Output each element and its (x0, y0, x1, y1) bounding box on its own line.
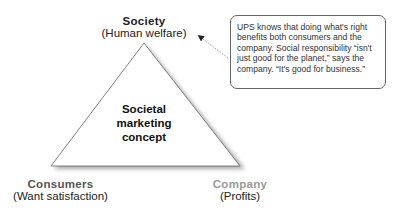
vertex-company: Company (Profits) (205, 178, 275, 202)
company-subtitle: (Profits) (205, 190, 275, 202)
consumers-title: Consumers (8, 178, 113, 190)
callout-box: UPS knows that doing what's right benefi… (230, 15, 386, 89)
vertex-consumers: Consumers (Want satisfaction) (8, 178, 113, 202)
vertex-society: Society (Human welfare) (94, 15, 194, 39)
center-label-line-3: concept (94, 130, 194, 144)
center-label: Societal marketing concept (94, 102, 194, 144)
society-title: Society (94, 15, 194, 27)
callout-arrow (199, 36, 228, 58)
society-subtitle: (Human welfare) (94, 27, 194, 39)
center-label-line-2: marketing (94, 116, 194, 130)
company-title: Company (205, 178, 275, 190)
center-label-line-1: Societal (94, 102, 194, 116)
consumers-subtitle: (Want satisfaction) (8, 190, 113, 202)
